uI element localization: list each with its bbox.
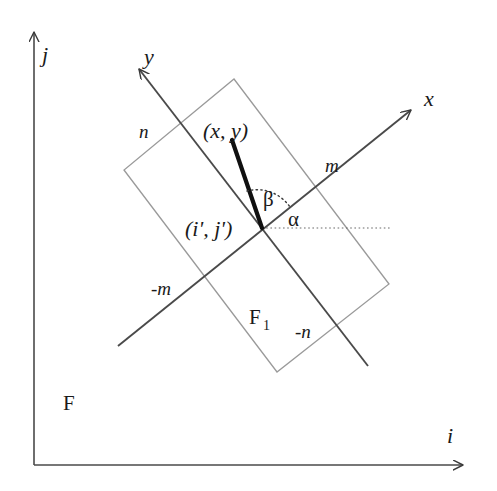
tick-label-n: n [139, 121, 149, 142]
tick-label-m: m [325, 155, 339, 176]
local-origin-label: (i', j') [185, 216, 232, 241]
region-label-F1: F 1 [249, 305, 270, 333]
tick-label-negative-n: -n [295, 321, 311, 342]
axis-i-label: i [447, 423, 453, 448]
region-label-F1-subscript: 1 [263, 318, 270, 333]
point-xy-label: (x, y) [203, 118, 248, 143]
axis-y-label: y [142, 44, 154, 69]
angle-alpha-label: α [288, 207, 299, 231]
coordinate-frame-diagram: j i x y F F 1 n m -m -n (x, y) (i', j') … [0, 0, 497, 491]
diagram-root: j i x y F F 1 n m -m -n (x, y) (i', j') … [0, 0, 497, 491]
point-vector-line [232, 140, 262, 228]
global-axes-group [34, 32, 463, 465]
axis-x-label: x [423, 86, 434, 111]
region-label-F: F [63, 391, 75, 415]
tick-label-negative-m: -m [151, 278, 171, 299]
region-label-F1-main: F [249, 305, 261, 329]
axis-j-label: j [39, 42, 48, 67]
angle-beta-label: β [263, 187, 274, 211]
